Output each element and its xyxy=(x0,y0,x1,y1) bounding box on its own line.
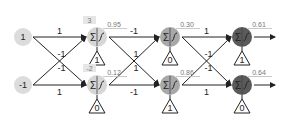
connections xyxy=(33,37,231,85)
sum-input-value: -2 xyxy=(86,65,92,72)
weight-label: 1 xyxy=(57,87,62,97)
neural-network-diagram: 1-11Σ30.950Σ-20.120Σ0.301Σ0.861Σ0.610Σ0.… xyxy=(0,0,281,125)
sum-icon: Σ xyxy=(90,32,96,43)
bias-value: 0 xyxy=(94,103,99,113)
sum-input-value: 3 xyxy=(88,17,92,24)
weight-label: 1 xyxy=(133,49,138,59)
bias-value: 0 xyxy=(167,55,172,65)
weight-label: -1 xyxy=(57,49,65,59)
weight-label: -1 xyxy=(130,26,138,36)
output-value: 0.12 xyxy=(107,69,121,76)
output-value: 0.64 xyxy=(252,69,266,76)
weight-label: 1 xyxy=(204,87,209,97)
output-value: 0.61 xyxy=(252,21,266,28)
weight-label: 1 xyxy=(57,26,62,36)
nodes: 1-11Σ30.950Σ-20.120Σ0.301Σ0.861Σ0.610Σ0.… xyxy=(14,16,275,113)
sum-icon: Σ xyxy=(235,80,241,91)
weight-label: -1 xyxy=(57,63,65,73)
sum-icon: Σ xyxy=(163,32,169,43)
output-value: 0.30 xyxy=(180,21,194,28)
sum-icon: Σ xyxy=(235,32,241,43)
bias-value: 1 xyxy=(239,55,244,65)
bias-value: 1 xyxy=(94,55,99,65)
weight-label: -1 xyxy=(204,63,212,73)
output-value: 0.95 xyxy=(107,21,121,28)
weight-label: -1 xyxy=(204,49,212,59)
sum-icon: Σ xyxy=(163,80,169,91)
input-value: 1 xyxy=(20,32,25,42)
weight-label: 1 xyxy=(204,26,209,36)
weight-label: 1 xyxy=(133,63,138,73)
bias-value: 1 xyxy=(167,103,172,113)
sum-icon: Σ xyxy=(90,80,96,91)
weight-label: -1 xyxy=(130,87,138,97)
input-value: -1 xyxy=(19,80,27,90)
output-value: 0.86 xyxy=(180,69,194,76)
bias-value: 0 xyxy=(239,103,244,113)
